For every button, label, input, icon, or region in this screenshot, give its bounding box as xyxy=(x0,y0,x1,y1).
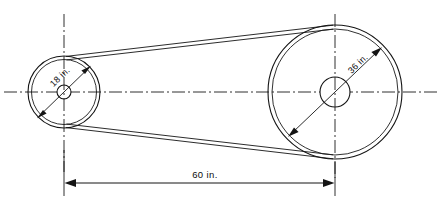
center-distance-arrow-right xyxy=(323,179,335,187)
large-pulley-diameter-label-group: 36 in. xyxy=(346,52,370,76)
center-distance-arrow-left xyxy=(65,179,77,187)
small-pulley-dim-arrow-lower-left xyxy=(37,110,47,118)
small-pulley-diameter-label: 18 in. xyxy=(48,65,72,89)
engineering-drawing-canvas: 18 in. 36 in. 60 in. xyxy=(0,0,444,204)
belt-upper-outer-line xyxy=(66,25,333,56)
center-distance-label: 60 in. xyxy=(192,169,218,180)
small-pulley-dim-arrow-upper-right xyxy=(81,66,91,74)
large-pulley-diameter-label: 36 in. xyxy=(346,52,370,76)
pulley-belt-drawing: 18 in. 36 in. 60 in. xyxy=(0,0,444,204)
small-pulley-diameter-label-group: 18 in. xyxy=(48,65,72,89)
